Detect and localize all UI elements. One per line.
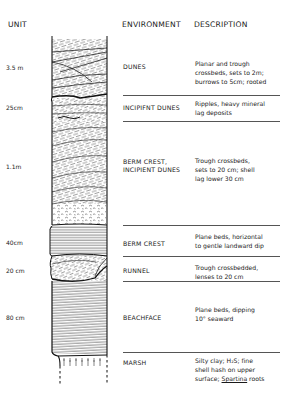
unit-thickness: 1.1m bbox=[6, 163, 46, 170]
unit-divider bbox=[123, 225, 280, 226]
unit-divider bbox=[123, 256, 280, 257]
unit-description: Ripples, heavy mineral lag deposits bbox=[195, 99, 299, 117]
unit-description: Silty clay; H₂S; fine shell hash on uppe… bbox=[195, 356, 299, 383]
unit-environment: DUNES bbox=[123, 63, 146, 71]
unit-environment: RUNNEL bbox=[123, 267, 150, 275]
unit-environment: BERM CREST, INCIPIENT DUNES bbox=[123, 158, 180, 174]
unit-marsh-pattern bbox=[58, 355, 107, 384]
unit-thickness: 25cm bbox=[6, 104, 46, 111]
genus-name: Spartina bbox=[222, 375, 248, 382]
unit-runnel-pattern bbox=[50, 254, 107, 281]
unit-description: Plane beds, horizontal to gentle landwar… bbox=[195, 232, 299, 250]
unit-dunes-pattern bbox=[52, 39, 107, 98]
unit-divider bbox=[123, 121, 280, 122]
unit-environment: BEACHFACE bbox=[123, 314, 161, 322]
unit-berm-crest-pattern bbox=[50, 226, 107, 256]
unit-environment: MARSH bbox=[123, 359, 146, 367]
unit-divider bbox=[123, 352, 280, 353]
unit-thickness: 80 cm bbox=[6, 314, 46, 321]
unit-description: Trough crossbedded, lenses to 20 cm bbox=[195, 263, 299, 281]
unit-berm-crest-incipient-dunes-pattern bbox=[52, 122, 107, 225]
unit-description: Plane beds, dipping 10° seaward bbox=[195, 305, 299, 323]
unit-environment: INCIPIFNT DUNES bbox=[123, 104, 180, 112]
unit-thickness: 20 cm bbox=[6, 267, 46, 274]
unit-thickness: 40cm bbox=[6, 239, 46, 246]
unit-description: Planar and trough crossbeds, sets to 2m;… bbox=[195, 59, 299, 86]
unit-beachface-pattern bbox=[52, 281, 107, 356]
unit-thickness: 3.5 m bbox=[6, 64, 46, 71]
unit-incipient-dunes-pattern bbox=[52, 98, 107, 122]
unit-environment: BERM CREST bbox=[123, 240, 165, 248]
unit-divider bbox=[123, 281, 280, 282]
unit-divider bbox=[123, 95, 280, 96]
unit-description: Trough crossbeds, sets to 20 cm; shell l… bbox=[195, 156, 299, 183]
